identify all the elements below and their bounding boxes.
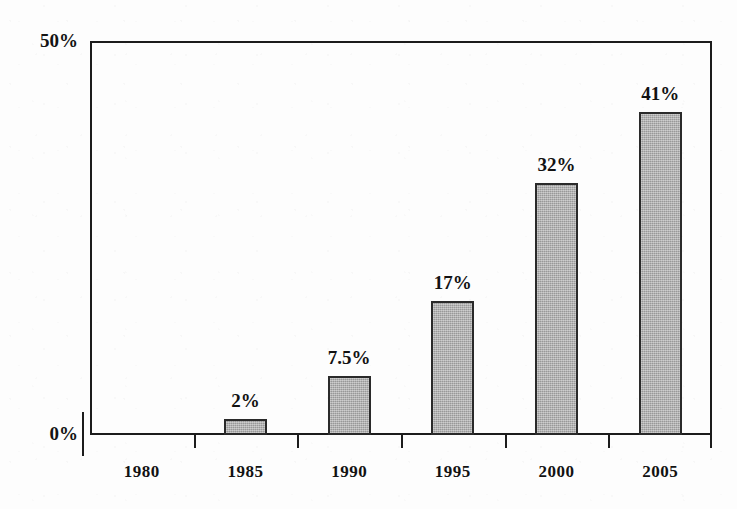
value-label-2005: 41% (641, 83, 679, 105)
x-tick-1 (194, 435, 196, 448)
x-label-1995: 1995 (435, 462, 471, 482)
x-tick-3 (401, 435, 403, 448)
x-tick-5 (608, 435, 610, 448)
y-axis-tick-label-50: 50% (6, 30, 78, 52)
bar-1995 (431, 301, 474, 435)
value-label-1995: 17% (434, 272, 472, 294)
value-label-1985: 2% (231, 390, 260, 412)
bars-container (90, 41, 712, 435)
x-tick-2 (297, 435, 299, 448)
y-axis-tick-label-0: 0% (6, 423, 78, 445)
x-tick-4 (505, 435, 507, 448)
bar-2000 (535, 183, 578, 435)
bar-1990 (328, 376, 371, 435)
x-tick-end (710, 435, 712, 448)
x-label-2000: 2000 (539, 462, 575, 482)
x-label-2005: 2005 (642, 462, 678, 482)
x-label-1980: 1980 (124, 462, 160, 482)
value-label-2000: 32% (538, 154, 576, 176)
x-label-1990: 1990 (331, 462, 367, 482)
chart-title (0, 0, 737, 1)
bar-chart-figure: 50% 0% 2%7.5%17%32%41% 19801985199019952… (0, 0, 737, 509)
y-axis-origin-tick (82, 412, 84, 456)
value-label-1990: 7.5% (328, 347, 371, 369)
bar-1985 (224, 419, 267, 435)
x-label-1985: 1985 (228, 462, 264, 482)
bar-2005 (639, 112, 682, 435)
